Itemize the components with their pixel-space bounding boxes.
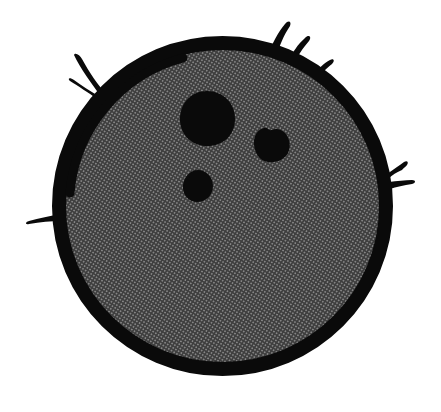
coconut-drawing-canvas [0, 0, 441, 412]
coconut-eye-large [180, 91, 235, 146]
coconut-eye-right [254, 128, 290, 162]
coconut-illustration [0, 0, 441, 412]
coconut-shell [59, 43, 386, 369]
husk-tuft-right-2 [389, 180, 415, 189]
